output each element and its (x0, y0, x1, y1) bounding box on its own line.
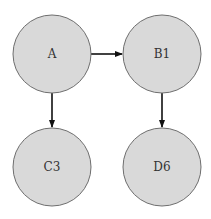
node-d6-label: D6 (153, 160, 170, 174)
node-b1: B1 (123, 15, 201, 93)
node-c3-label: C3 (44, 160, 61, 174)
node-b1-label: B1 (154, 47, 170, 61)
node-a-label: A (47, 47, 57, 61)
node-a: A (13, 15, 91, 93)
graph-canvas: A B1 C3 D6 (0, 0, 211, 219)
node-c3: C3 (13, 128, 91, 206)
node-d6: D6 (123, 128, 201, 206)
